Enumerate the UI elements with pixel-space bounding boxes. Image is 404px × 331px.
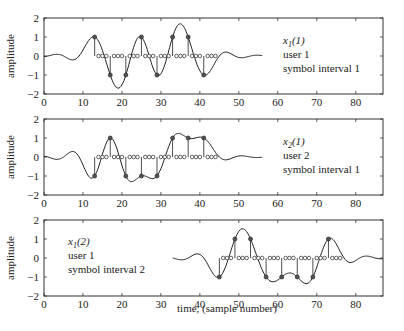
y-tick-label: −2 <box>27 290 39 302</box>
annotation-signal: x1(2) <box>67 235 90 250</box>
zero-sample-marker <box>159 54 163 58</box>
zero-sample-marker <box>132 155 136 159</box>
zero-sample-marker <box>303 256 307 260</box>
x-tick-label: 60 <box>272 96 284 108</box>
zero-sample-marker <box>210 54 214 58</box>
y-tick-label: 2 <box>34 113 40 125</box>
zero-sample-marker <box>120 155 124 159</box>
zero-sample-marker <box>198 155 202 159</box>
annotation-user: user 1 <box>283 48 310 60</box>
x-tick-label: 70 <box>311 96 323 108</box>
zero-sample-marker <box>128 54 132 58</box>
symbol-marker <box>155 174 159 178</box>
symbol-marker <box>108 73 112 77</box>
symbol-marker <box>280 275 284 279</box>
zero-sample-marker <box>315 256 319 260</box>
figure: 01020304050607080−2−1012amplitudex1(1)us… <box>0 0 404 331</box>
y-tick-label: 0 <box>34 252 40 264</box>
zero-sample-marker <box>194 54 198 58</box>
zero-sample-marker <box>334 256 338 260</box>
zero-sample-marker <box>163 155 167 159</box>
symbol-marker <box>249 237 253 241</box>
zero-sample-marker <box>144 155 148 159</box>
x-tick-label: 80 <box>350 197 362 209</box>
x-tick-label: 10 <box>77 197 89 209</box>
y-tick-label: 0 <box>34 50 40 62</box>
x-tick-label: 60 <box>272 197 284 209</box>
panel-3: 01020304050607080−2−1012amplitudex1(2)us… <box>4 214 383 310</box>
x-tick-label: 40 <box>194 197 206 209</box>
symbol-marker <box>171 136 175 140</box>
annotation-signal: x2(1) <box>282 135 305 150</box>
zero-sample-marker <box>272 256 276 260</box>
zero-sample-marker <box>307 256 311 260</box>
zero-sample-marker <box>167 54 171 58</box>
zero-sample-marker <box>167 155 171 159</box>
zero-sample-marker <box>260 256 264 260</box>
zero-sample-marker <box>136 155 140 159</box>
x-tick-label: 0 <box>41 197 47 209</box>
y-axis-label: amplitude <box>4 236 16 280</box>
zero-sample-marker <box>144 54 148 58</box>
x-tick-label: 30 <box>155 96 167 108</box>
panel-2: 01020304050607080−2−1012amplitudex2(1)us… <box>4 113 383 209</box>
y-tick-label: −1 <box>27 69 39 81</box>
x-tick-label: 30 <box>155 197 167 209</box>
symbol-marker <box>202 73 206 77</box>
zero-sample-marker <box>198 54 202 58</box>
zero-sample-marker <box>338 256 342 260</box>
zero-sample-marker <box>101 54 105 58</box>
annotation-user: user 2 <box>283 149 310 161</box>
y-tick-label: 0 <box>34 151 40 163</box>
y-tick-label: −1 <box>27 170 39 182</box>
x-tick-label: 80 <box>350 96 362 108</box>
zero-sample-marker <box>151 155 155 159</box>
x-tick-label: 0 <box>41 96 47 108</box>
x-tick-label: 70 <box>311 197 323 209</box>
symbol-marker <box>202 136 206 140</box>
symbol-marker <box>139 174 143 178</box>
zero-sample-marker <box>214 54 218 58</box>
zero-sample-marker <box>292 256 296 260</box>
zero-sample-marker <box>319 256 323 260</box>
zero-sample-marker <box>159 155 163 159</box>
symbol-marker <box>124 73 128 77</box>
zero-sample-marker <box>206 54 210 58</box>
annotation-interval: symbol interval 2 <box>68 263 145 275</box>
x-tick-label: 20 <box>116 197 128 209</box>
zero-sample-marker <box>101 155 105 159</box>
zero-sample-marker <box>331 256 335 260</box>
symbol-marker <box>155 73 159 77</box>
zero-sample-marker <box>132 54 136 58</box>
zero-sample-marker <box>116 54 120 58</box>
zero-sample-marker <box>257 256 261 260</box>
zero-sample-marker <box>182 155 186 159</box>
annotation-interval: symbol interval 1 <box>283 62 360 74</box>
zero-sample-marker <box>245 256 249 260</box>
symbol-marker <box>233 237 237 241</box>
panel-1: 01020304050607080−2−1012amplitudex1(1)us… <box>4 12 383 108</box>
x-tick-label: 30 <box>155 298 167 310</box>
y-tick-label: 1 <box>34 132 40 144</box>
x-tick-label: 10 <box>77 96 89 108</box>
symbol-marker <box>311 275 315 279</box>
symbol-marker <box>93 35 97 39</box>
zero-sample-marker <box>151 54 155 58</box>
zero-sample-marker <box>206 155 210 159</box>
y-tick-label: 2 <box>34 214 40 226</box>
y-tick-label: 1 <box>34 31 40 43</box>
y-tick-label: −2 <box>27 189 39 201</box>
x-tick-label: 50 <box>233 197 245 209</box>
symbol-marker <box>186 136 190 140</box>
x-tick-label: 0 <box>41 298 47 310</box>
y-tick-label: −1 <box>27 271 39 283</box>
zero-sample-marker <box>284 256 288 260</box>
zero-sample-marker <box>105 54 109 58</box>
zero-sample-marker <box>163 54 167 58</box>
zero-sample-marker <box>210 155 214 159</box>
x-tick-label: 70 <box>311 298 323 310</box>
symbol-marker <box>186 35 190 39</box>
x-tick-label: 40 <box>194 96 206 108</box>
zero-sample-marker <box>97 155 101 159</box>
zero-sample-marker <box>136 54 140 58</box>
